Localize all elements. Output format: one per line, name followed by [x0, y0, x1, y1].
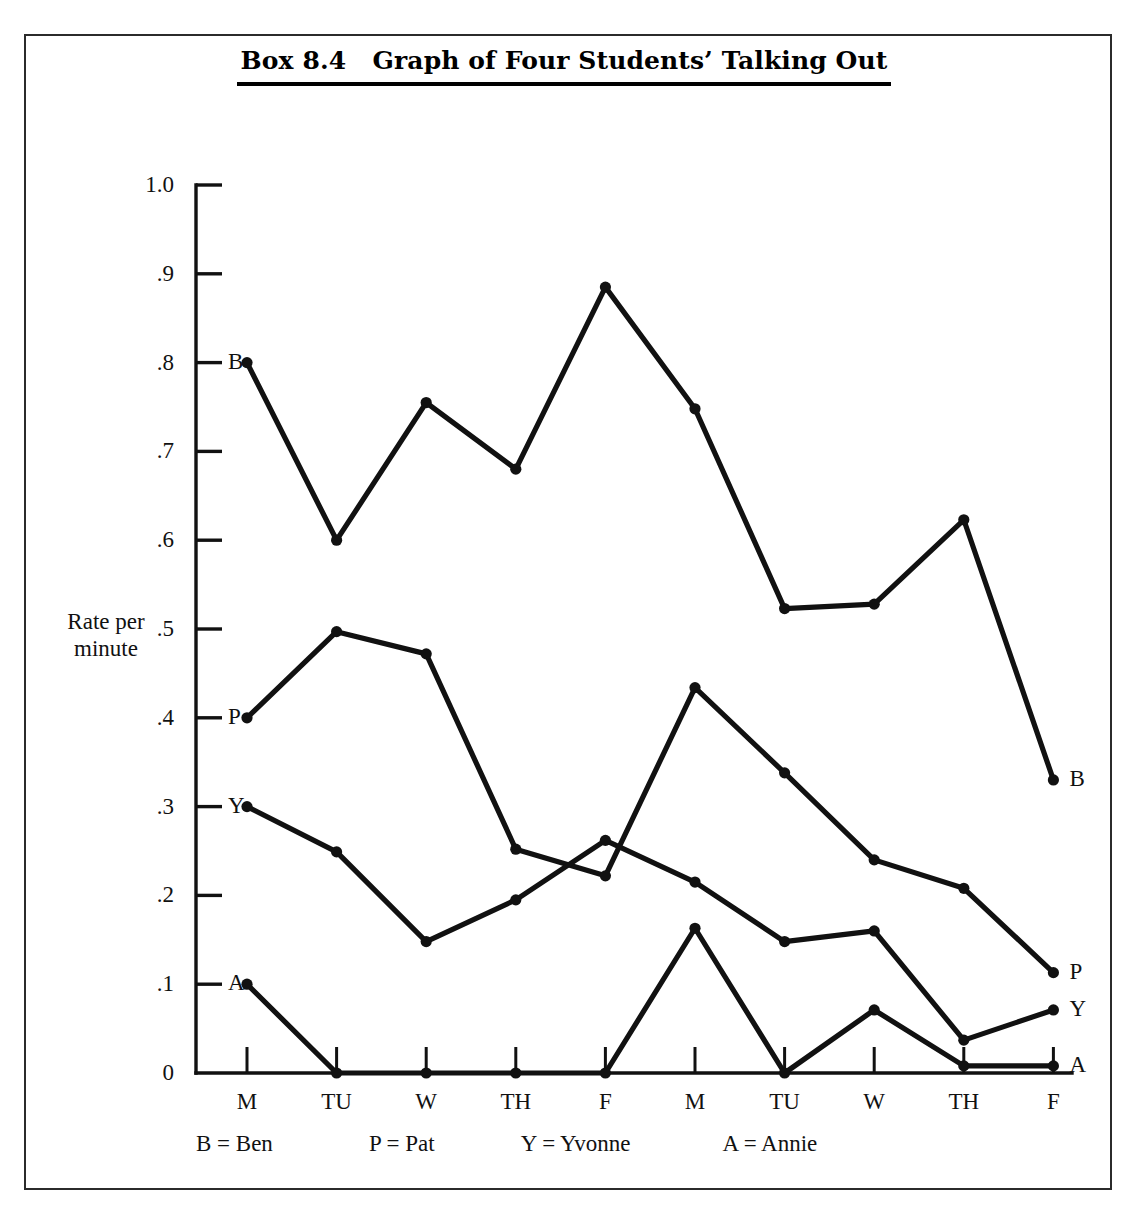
legend-item-b: B = Ben [196, 1131, 273, 1157]
x-axis-tick-label-6: TU [740, 1090, 830, 1113]
data-point-a-1 [331, 1067, 342, 1078]
series-start-label-b: B [228, 350, 243, 373]
data-point-a-7 [869, 1004, 880, 1015]
data-point-a-5 [689, 923, 700, 934]
series-end-label-y: Y [1069, 997, 1086, 1020]
data-point-y-5 [689, 876, 700, 887]
data-point-p-4 [600, 870, 611, 881]
y-axis-caption-line1: Rate per [36, 608, 176, 635]
y-axis-tick-label-4: .6 [96, 528, 174, 551]
data-point-a-4 [600, 1067, 611, 1078]
data-point-p-8 [958, 883, 969, 894]
data-point-b-8 [958, 514, 969, 525]
data-point-a-6 [779, 1067, 790, 1078]
data-point-b-7 [869, 599, 880, 610]
data-point-y-7 [869, 925, 880, 936]
data-point-b-1 [331, 535, 342, 546]
data-point-a-2 [421, 1067, 432, 1078]
series-group [241, 282, 1059, 1079]
y-axis-tick-label-1: .9 [96, 262, 174, 285]
legend-item-p: P = Pat [369, 1131, 435, 1157]
data-point-p-5 [689, 682, 700, 693]
x-axis-tick-label-1: TU [292, 1090, 382, 1113]
x-axis-tick-label-7: W [829, 1090, 919, 1113]
x-axis-tick-label-3: TH [471, 1090, 561, 1113]
series-end-label-p: P [1069, 960, 1082, 983]
data-point-b-9 [1048, 774, 1059, 785]
y-axis-tick-label-0: 1.0 [96, 173, 174, 196]
y-axis-tick-label-8: .2 [96, 883, 174, 906]
series-start-label-y: Y [228, 794, 245, 817]
series-end-label-a: A [1069, 1053, 1086, 1076]
data-point-p-2 [421, 648, 432, 659]
x-axis-tick-label-9: F [1008, 1090, 1098, 1113]
series-line-b [247, 287, 1053, 780]
y-axis-tick-label-7: .3 [96, 795, 174, 818]
x-axis-tick-label-5: M [650, 1090, 740, 1113]
y-axis-caption-line2: minute [36, 635, 176, 662]
data-point-y-1 [331, 846, 342, 857]
x-axis-tick-label-2: W [381, 1090, 471, 1113]
axes-group [196, 185, 1072, 1073]
x-axis-tick-label-4: F [560, 1090, 650, 1113]
y-axis-tick-label-9: .1 [96, 972, 174, 995]
y-axis-caption: Rate per minute [36, 608, 176, 662]
series-end-label-b: B [1069, 767, 1084, 790]
series-start-label-p: P [228, 705, 241, 728]
legend-item-y: Y = Yvonne [521, 1131, 631, 1157]
y-axis-tick-label-10: 0 [96, 1061, 174, 1084]
y-axis-tick-label-3: .7 [96, 439, 174, 462]
data-point-a-9 [1048, 1060, 1059, 1071]
data-point-b-3 [510, 464, 521, 475]
data-point-a-8 [958, 1060, 969, 1071]
x-axis-tick-label-8: TH [919, 1090, 1009, 1113]
data-point-p-3 [510, 844, 521, 855]
y-axis-tick-label-6: .4 [96, 706, 174, 729]
data-point-p-1 [331, 626, 342, 637]
data-point-b-6 [779, 603, 790, 614]
data-point-y-4 [600, 835, 611, 846]
data-point-b-2 [421, 397, 432, 408]
data-point-a-3 [510, 1067, 521, 1078]
x-axis-tick-label-0: M [202, 1090, 292, 1113]
data-point-p-7 [869, 854, 880, 865]
figure-page: Box 8.4 Graph of Four Students’ Talking … [0, 0, 1128, 1222]
data-point-y-3 [510, 894, 521, 905]
data-point-p-0 [241, 712, 252, 723]
legend-item-a: A = Annie [723, 1131, 818, 1157]
data-point-y-9 [1048, 1004, 1059, 1015]
data-point-p-9 [1048, 967, 1059, 978]
data-point-y-8 [958, 1035, 969, 1046]
data-point-y-6 [779, 936, 790, 947]
series-line-p [247, 632, 1053, 973]
data-point-b-4 [600, 282, 611, 293]
data-point-p-6 [779, 767, 790, 778]
data-point-b-5 [689, 403, 700, 414]
series-start-label-a: A [228, 971, 245, 994]
data-point-y-2 [421, 936, 432, 947]
y-axis-tick-label-2: .8 [96, 351, 174, 374]
